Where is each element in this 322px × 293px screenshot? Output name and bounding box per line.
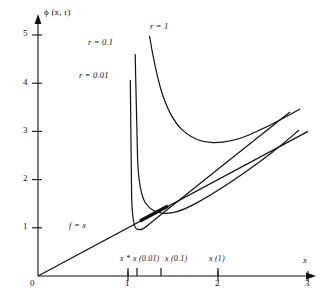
figure-barrier-function-plot: ϕ (x, r) x 0 1 2 3 4 5 1 2 3 r = 0.01 r … (0, 0, 322, 293)
y-tick-label-1: 1 (23, 222, 28, 231)
minimizer-label-x-star: x * (120, 255, 130, 263)
minimizer-tick-marks (128, 268, 218, 276)
minimizer-label-x-0-01: x (0.01) (133, 255, 159, 263)
curve-r-1 (150, 36, 301, 143)
minimizer-label-x-1: x (1) (209, 255, 225, 263)
x-tick-label-1: 1 (125, 279, 130, 288)
y-tick-label-5: 5 (23, 29, 28, 38)
y-axis-ticks (32, 35, 42, 228)
y-tick-label-4: 4 (23, 78, 28, 87)
y-tick-label-2: 2 (23, 174, 28, 183)
curve-r-0-01 (130, 80, 290, 230)
x-axis (38, 273, 316, 280)
curve-label-r-0-01: r = 0.01 (79, 71, 109, 80)
x-tick-label-2: 2 (215, 279, 220, 288)
curve-label-r-1: r = 1 (150, 22, 169, 31)
curve-label-f-equals-x: f = x (69, 221, 86, 230)
x-tick-label-3: 3 (305, 279, 310, 288)
x-axis-title: x (303, 256, 307, 265)
y-axis-title: ϕ (x, r) (44, 8, 71, 17)
y-tick-label-3: 3 (23, 126, 28, 135)
curve-label-r-0-1: r = 0.1 (88, 38, 113, 47)
minimizer-label-x-0-1: x (0.1) (165, 255, 187, 263)
origin-label: 0 (30, 279, 35, 288)
curve-r-0-1 (135, 54, 299, 213)
chart-svg (0, 0, 322, 293)
y-axis (35, 14, 42, 276)
